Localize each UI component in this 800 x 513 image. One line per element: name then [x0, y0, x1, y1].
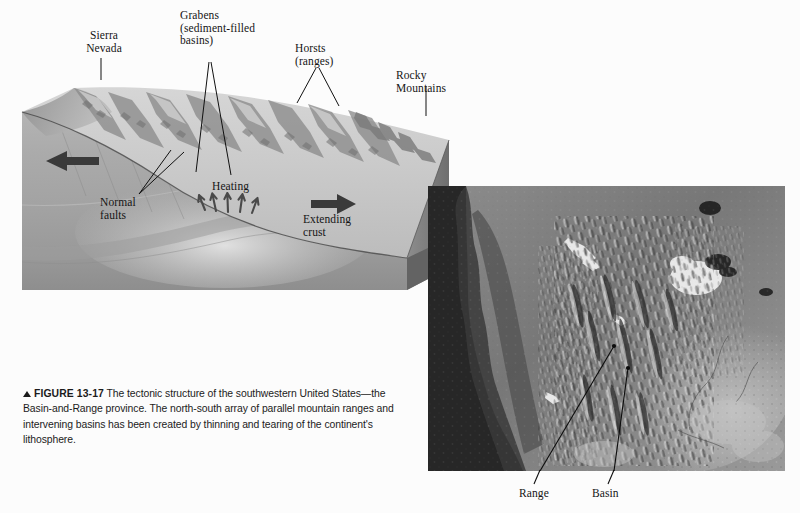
figure-caption-label: FIGURE: [34, 388, 74, 399]
label-rocky-mountains: Rocky Mountains: [396, 69, 466, 94]
page-bleed-artifact: [400, 500, 800, 513]
label-horsts: Horsts (ranges): [295, 42, 357, 67]
label-grabens: Grabens (sediment-filled basins): [180, 9, 280, 47]
satellite-image-graphic: [428, 186, 785, 471]
figure-caption: FIGURE 13-17 The tectonic structure of t…: [23, 386, 395, 448]
leader-horst-2: [319, 68, 339, 106]
basin-and-range-satellite-image: [428, 186, 785, 471]
label-sierra-nevada: Sierra Nevada: [76, 29, 132, 54]
figure-number: 13-17: [77, 388, 104, 399]
label-extending-crust: Extending crust: [303, 213, 365, 238]
basin-and-range-block-diagram: Sierra Nevada Grabens (sediment-filled b…: [0, 0, 470, 310]
photo-label-leaders: [490, 468, 670, 490]
label-basin: Basin: [592, 487, 619, 500]
label-normal-faults: Normal faults: [100, 196, 160, 221]
label-range: Range: [519, 487, 549, 500]
leader-horst-1: [297, 68, 316, 103]
figure-page: Sierra Nevada Grabens (sediment-filled b…: [0, 0, 800, 513]
label-heating: Heating: [212, 180, 249, 193]
up-triangle-icon: [23, 391, 31, 397]
